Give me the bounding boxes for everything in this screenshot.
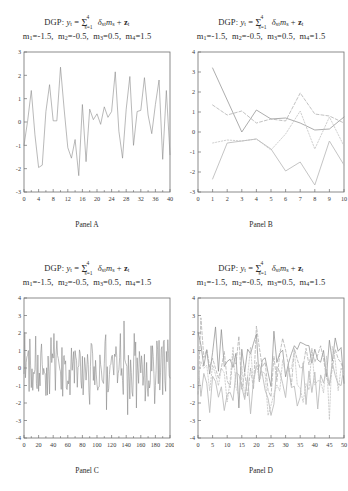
svg-text:120: 120 bbox=[107, 441, 116, 448]
panel-b-svg: -3-2-101234012345678910 bbox=[174, 44, 348, 219]
svg-text:0: 0 bbox=[22, 441, 25, 448]
panel-a-label: Panel A bbox=[0, 220, 174, 229]
panel-c-plot: -4-3-2-101234020406080100120140160180200 bbox=[0, 290, 174, 465]
svg-text:0: 0 bbox=[196, 195, 199, 202]
svg-text:-3: -3 bbox=[190, 417, 195, 424]
panel-a-title: DGP: yt = Σ4s=1 δstms + zt m1=-1.5, m2=-… bbox=[0, 0, 174, 44]
svg-text:140: 140 bbox=[122, 441, 131, 448]
svg-text:4: 4 bbox=[255, 195, 258, 202]
panel-c-label: Panel C bbox=[0, 466, 174, 475]
svg-text:20: 20 bbox=[94, 195, 100, 202]
panel-c: DGP: yt = Σ4s=1 δstms + zt m1=-1.5, m2=-… bbox=[0, 246, 174, 491]
svg-text:10: 10 bbox=[341, 195, 347, 202]
svg-text:-3: -3 bbox=[16, 417, 21, 424]
svg-text:-3: -3 bbox=[16, 188, 21, 195]
svg-text:32: 32 bbox=[138, 195, 144, 202]
svg-text:50: 50 bbox=[341, 441, 347, 448]
series-line bbox=[213, 68, 344, 132]
svg-text:160: 160 bbox=[136, 441, 145, 448]
svg-text:4: 4 bbox=[192, 48, 195, 55]
svg-text:5: 5 bbox=[269, 195, 272, 202]
svg-text:0: 0 bbox=[196, 441, 199, 448]
svg-text:2: 2 bbox=[18, 329, 21, 336]
svg-text:2: 2 bbox=[192, 88, 195, 95]
svg-text:7: 7 bbox=[299, 195, 302, 202]
svg-text:15: 15 bbox=[239, 441, 245, 448]
svg-text:80: 80 bbox=[79, 441, 85, 448]
svg-text:0: 0 bbox=[18, 118, 21, 125]
dgp-prefix: DGP: bbox=[218, 17, 238, 27]
svg-text:4: 4 bbox=[37, 195, 40, 202]
svg-text:8: 8 bbox=[313, 195, 316, 202]
svg-text:0: 0 bbox=[22, 195, 25, 202]
svg-text:8: 8 bbox=[52, 195, 55, 202]
svg-text:40: 40 bbox=[50, 441, 56, 448]
panel-b-plot: -3-2-101234012345678910 bbox=[174, 44, 348, 219]
svg-text:0: 0 bbox=[18, 364, 21, 371]
panel-d-svg: -4-3-2-10123405101520253035404550 bbox=[174, 290, 348, 465]
svg-text:12: 12 bbox=[65, 195, 71, 202]
svg-text:24: 24 bbox=[109, 195, 115, 202]
dgp-prefix: DGP: bbox=[44, 263, 64, 273]
svg-text:2: 2 bbox=[192, 329, 195, 336]
svg-text:-1: -1 bbox=[190, 382, 195, 389]
series-line bbox=[213, 139, 344, 185]
panel-d-title: DGP: yt = Σ4s=1 δstms + zt m1=-1.5, m2=-… bbox=[174, 246, 348, 290]
svg-text:1: 1 bbox=[18, 95, 21, 102]
svg-text:2: 2 bbox=[226, 195, 229, 202]
svg-text:200: 200 bbox=[165, 441, 174, 448]
svg-text:-1: -1 bbox=[190, 148, 195, 155]
svg-text:-2: -2 bbox=[16, 165, 21, 172]
panel-b: DGP: yt = Σ4s=1 δstms + zt m1=-1.5, m2=-… bbox=[174, 0, 348, 245]
svg-text:100: 100 bbox=[92, 441, 101, 448]
svg-text:1: 1 bbox=[18, 347, 21, 354]
svg-text:40: 40 bbox=[167, 195, 173, 202]
svg-text:45: 45 bbox=[326, 441, 332, 448]
dgp-prefix: DGP: bbox=[218, 263, 238, 273]
svg-text:1: 1 bbox=[192, 108, 195, 115]
svg-text:-3: -3 bbox=[190, 188, 195, 195]
series-line bbox=[24, 321, 170, 415]
svg-text:3: 3 bbox=[192, 68, 195, 75]
series-line bbox=[198, 363, 344, 416]
svg-text:-1: -1 bbox=[16, 382, 21, 389]
svg-text:3: 3 bbox=[240, 195, 243, 202]
panel-d-plot: -4-3-2-10123405101520253035404550 bbox=[174, 290, 348, 465]
dgp-prefix: DGP: bbox=[44, 17, 64, 27]
svg-text:180: 180 bbox=[151, 441, 160, 448]
svg-text:-2: -2 bbox=[190, 399, 195, 406]
svg-text:40: 40 bbox=[312, 441, 318, 448]
series-line bbox=[213, 111, 344, 150]
panel-a-plot: -3-2-101230481216202428323640 bbox=[0, 44, 174, 219]
svg-text:30: 30 bbox=[283, 441, 289, 448]
svg-text:3: 3 bbox=[192, 312, 195, 319]
svg-text:5: 5 bbox=[211, 441, 214, 448]
svg-text:28: 28 bbox=[123, 195, 129, 202]
figure-container: DGP: yt = Σ4s=1 δstms + zt m1=-1.5, m2=-… bbox=[0, 0, 348, 491]
svg-text:20: 20 bbox=[36, 441, 42, 448]
svg-text:-4: -4 bbox=[190, 434, 195, 441]
svg-text:1: 1 bbox=[211, 195, 214, 202]
svg-text:-4: -4 bbox=[16, 434, 21, 441]
svg-text:6: 6 bbox=[284, 195, 287, 202]
panel-b-label: Panel B bbox=[174, 220, 348, 229]
svg-text:60: 60 bbox=[65, 441, 71, 448]
svg-text:4: 4 bbox=[192, 294, 195, 301]
series-line bbox=[24, 67, 170, 176]
svg-text:25: 25 bbox=[268, 441, 274, 448]
svg-text:-2: -2 bbox=[16, 399, 21, 406]
svg-text:36: 36 bbox=[152, 195, 158, 202]
svg-text:0: 0 bbox=[192, 128, 195, 135]
panel-a-svg: -3-2-101230481216202428323640 bbox=[0, 44, 174, 219]
svg-text:1: 1 bbox=[192, 347, 195, 354]
svg-text:20: 20 bbox=[253, 441, 259, 448]
svg-text:3: 3 bbox=[18, 312, 21, 319]
svg-text:2: 2 bbox=[18, 72, 21, 79]
panel-d: DGP: yt = Σ4s=1 δstms + zt m1=-1.5, m2=-… bbox=[174, 246, 348, 491]
panel-b-title: DGP: yt = Σ4s=1 δstms + zt m1=-1.5, m2=-… bbox=[174, 0, 348, 44]
panel-c-title: DGP: yt = Σ4s=1 δstms + zt m1=-1.5, m2=-… bbox=[0, 246, 174, 290]
panel-c-svg: -4-3-2-101234020406080100120140160180200 bbox=[0, 290, 174, 465]
panel-d-label: Panel D bbox=[174, 466, 348, 475]
svg-text:16: 16 bbox=[79, 195, 85, 202]
svg-text:10: 10 bbox=[224, 441, 230, 448]
